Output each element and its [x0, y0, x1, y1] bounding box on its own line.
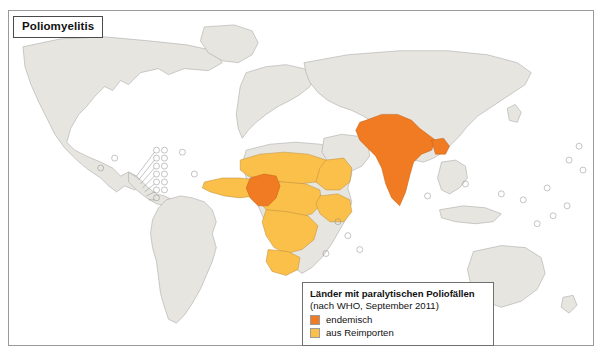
legend-label-reimport: aus Reimporten	[326, 327, 394, 339]
legend-subtitle: (nach WHO, September 2011)	[310, 300, 486, 312]
map-title-box: Poliomyelitis	[13, 16, 103, 38]
page-title: Poliomyelitis	[22, 20, 94, 32]
legend-item-endemic: endemisch	[310, 314, 486, 326]
world-map	[9, 11, 593, 345]
legend-title: Länder mit paralytischen Poliofällen	[310, 288, 486, 300]
legend-label-endemic: endemisch	[326, 314, 372, 326]
legend: Länder mit paralytischen Poliofällen (na…	[302, 282, 494, 346]
poliomyelitis-map-figure: Poliomyelitis Länder mit paralytischen P…	[0, 0, 602, 362]
legend-item-reimport: aus Reimporten	[310, 327, 486, 339]
map-frame	[8, 10, 594, 346]
legend-swatch-reimport	[310, 328, 320, 338]
legend-swatch-endemic	[310, 315, 320, 325]
